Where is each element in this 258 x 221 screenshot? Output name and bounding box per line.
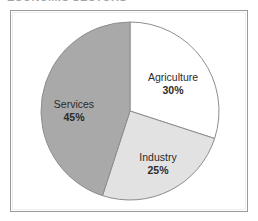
pie-chart: Agriculture 30% Services 45% Industry 25…	[0, 0, 258, 221]
pie-chart-svg	[0, 0, 258, 221]
pie-slice-group	[41, 22, 219, 200]
